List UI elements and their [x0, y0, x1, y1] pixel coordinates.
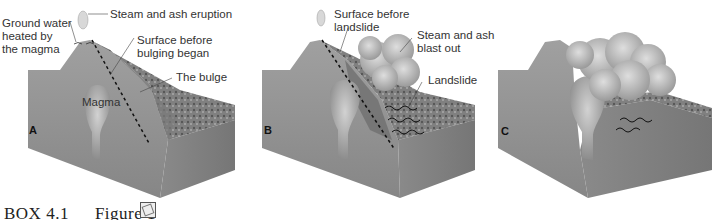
label-the-bulge: The bulge: [176, 71, 227, 84]
volcano-eruption-figure: Steam and ash eruption Ground water heat…: [0, 0, 715, 220]
label-surface-before-landslide-1: Surface before: [334, 8, 409, 21]
panel-letter-a: A: [29, 124, 37, 136]
label-ground-water-3: the magma: [2, 43, 60, 56]
figure-caption: BOX 4.1Figure 1: [4, 204, 156, 220]
caption-box-number: BOX 4.1: [4, 204, 69, 220]
label-steam-ash-blast-2: blast out: [417, 42, 460, 55]
label-ground-water-2: heated by: [2, 30, 53, 43]
label-steam-ash-eruption: Steam and ash eruption: [110, 8, 232, 21]
panel-letter-b: B: [264, 124, 272, 136]
label-landslide: Landslide: [428, 74, 477, 87]
figure-link-icon[interactable]: [140, 202, 156, 218]
label-surface-before-landslide-2: landslide: [334, 21, 379, 34]
label-magma: Magma: [82, 96, 120, 109]
panel-c-block: [498, 32, 712, 198]
label-ground-water-1: Ground water: [2, 17, 72, 30]
label-steam-ash-blast-1: Steam and ash: [417, 29, 494, 42]
panel-letter-c: C: [501, 125, 509, 137]
label-surface-before-bulging-2: bulging began: [137, 47, 209, 60]
label-surface-before-bulging-1: Surface before: [137, 34, 212, 47]
